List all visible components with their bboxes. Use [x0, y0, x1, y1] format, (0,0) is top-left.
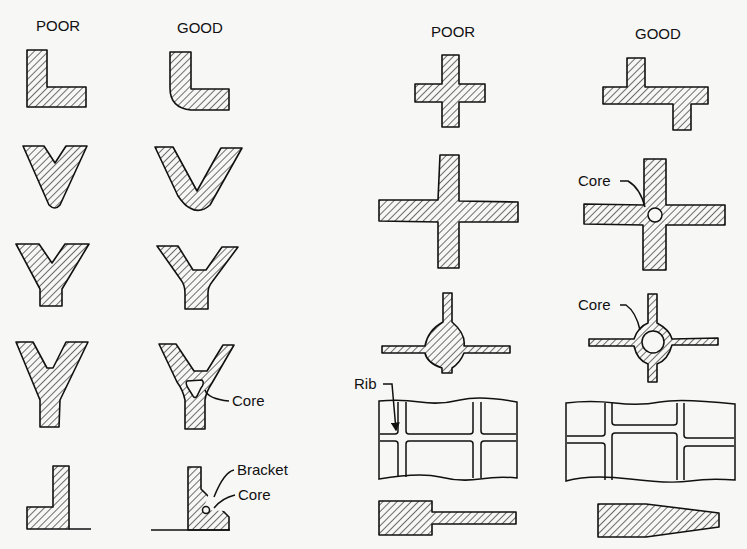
- left-good-y-cored: Core: [159, 344, 265, 429]
- left-poor-y-section: [16, 244, 89, 306]
- hub-core-leader: [620, 305, 640, 330]
- cross-core-leader: [620, 181, 645, 207]
- right-good-tapered-section: [598, 504, 719, 537]
- cross-core-label: Core: [578, 172, 611, 189]
- left-poor-l-section: [27, 50, 86, 107]
- core-leader-line: [205, 390, 229, 401]
- bracket-label: Bracket: [237, 461, 289, 478]
- left-poor-header: POOR: [36, 17, 80, 34]
- right-poor-ribs: Rib: [354, 375, 517, 480]
- right-poor-cross-hub: [382, 293, 510, 373]
- hub-core-label: Core: [578, 296, 611, 313]
- left-good-y-section: [157, 246, 238, 309]
- right-poor-cross-small: [415, 55, 485, 127]
- left-good-v-section: [155, 147, 242, 210]
- right-poor-header: POOR: [431, 23, 475, 40]
- left-poor-y-heavy: [16, 342, 88, 427]
- left-poor-v-section: [23, 146, 87, 208]
- right-good-cross-cored: Core: [578, 159, 725, 270]
- right-good-hub-cored: Core: [578, 294, 718, 382]
- left-good-header: GOOD: [177, 19, 223, 36]
- hub-core-hole: [642, 331, 664, 353]
- bracket-leader-line: [214, 470, 234, 497]
- right-good-cross-staggered: [603, 58, 708, 130]
- left-poor-t-bracket: [27, 466, 91, 529]
- bracket-core-hole: [203, 507, 210, 514]
- right-poor-cross-large: [379, 155, 518, 268]
- rib-label: Rib: [354, 375, 377, 392]
- right-good-ribs-staggered: [566, 400, 735, 482]
- right-good-header: GOOD: [635, 25, 681, 42]
- right-poor-step-section: [379, 501, 516, 535]
- casting-design-diagram: POOR GOOD POOR GOOD Core Bracket: [0, 0, 747, 549]
- left-good-l-section: [170, 52, 229, 110]
- left-good-bracket: Bracket Core: [151, 461, 289, 530]
- cross-core-hole: [648, 208, 662, 222]
- core-label: Core: [232, 392, 265, 409]
- bracket-core-label: Core: [238, 486, 271, 503]
